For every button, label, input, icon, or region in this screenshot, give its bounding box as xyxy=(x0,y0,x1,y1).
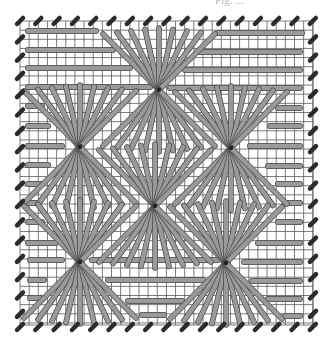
hole-mark xyxy=(17,91,23,97)
hole-mark xyxy=(182,18,188,24)
hole-mark xyxy=(145,18,151,24)
hole-mark xyxy=(17,36,23,42)
hole-mark xyxy=(310,293,316,299)
hole-mark xyxy=(310,110,316,116)
hole-mark xyxy=(17,73,23,79)
hole-mark xyxy=(310,128,316,134)
hole-mark xyxy=(17,238,23,244)
hole-mark xyxy=(17,110,23,116)
hole-mark xyxy=(109,18,115,24)
hole-mark xyxy=(17,18,23,24)
hole-mark xyxy=(17,128,23,134)
hole-mark xyxy=(310,36,316,42)
hole-mark xyxy=(237,18,243,24)
hole-mark xyxy=(310,256,316,262)
hole-mark xyxy=(310,164,316,170)
hole-mark xyxy=(310,55,316,61)
hole-mark xyxy=(310,201,316,207)
hole-mark xyxy=(310,274,316,280)
hole-mark xyxy=(127,18,133,24)
hole-mark xyxy=(17,274,23,280)
hole-mark xyxy=(218,18,224,24)
hole-mark xyxy=(292,18,298,24)
hole-mark xyxy=(310,146,316,152)
hole-mark xyxy=(17,164,23,170)
hole-mark xyxy=(200,18,206,24)
hole-mark xyxy=(90,18,96,24)
hole-mark xyxy=(17,293,23,299)
hole-mark xyxy=(310,73,316,79)
hole-mark xyxy=(163,18,169,24)
hole-mark xyxy=(17,183,23,189)
hole-mark xyxy=(17,324,23,330)
hole-mark xyxy=(54,18,60,24)
hole-mark xyxy=(17,55,23,61)
hole-mark xyxy=(273,18,279,24)
hole-mark xyxy=(255,18,261,24)
hole-mark xyxy=(310,18,316,24)
hole-mark xyxy=(17,219,23,225)
stitch-diagram xyxy=(0,0,331,341)
hole-mark xyxy=(17,311,23,317)
hole-mark xyxy=(72,18,78,24)
hole-mark xyxy=(310,91,316,97)
hole-mark xyxy=(310,238,316,244)
hole-mark xyxy=(35,18,41,24)
hole-mark xyxy=(310,311,316,317)
hole-mark xyxy=(17,256,23,262)
hole-mark xyxy=(310,183,316,189)
hole-mark xyxy=(310,219,316,225)
hole-mark xyxy=(17,146,23,152)
